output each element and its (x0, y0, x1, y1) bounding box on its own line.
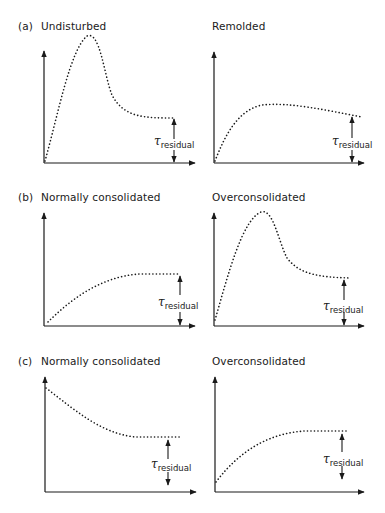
stress-strain-curve (215, 104, 362, 161)
tau-subscript: residual (330, 305, 364, 315)
tau-residual-label: τresidual (323, 452, 363, 466)
tau-symbol: τ (154, 134, 161, 148)
tau-symbol: τ (151, 457, 158, 471)
tau-subscript: residual (330, 458, 364, 468)
tau-residual-label: τresidual (154, 134, 194, 148)
tau-subscript: residual (339, 140, 373, 150)
plot-c-normally-consolidated (45, 377, 196, 492)
tau-residual-label: τresidual (151, 457, 191, 471)
diagram-canvas (0, 0, 385, 513)
tau-residual-label: τresidual (332, 134, 372, 148)
tau-subscript: residual (161, 140, 195, 150)
tau-subscript: residual (165, 301, 199, 311)
tau-residual-label: τresidual (323, 299, 363, 313)
tau-symbol: τ (332, 134, 339, 148)
tau-symbol: τ (323, 452, 330, 466)
tau-symbol: τ (158, 295, 165, 309)
tau-subscript: residual (158, 463, 192, 473)
plot-c-overconsolidated (215, 377, 364, 492)
tau-symbol: τ (323, 299, 330, 313)
tau-residual-label: τresidual (158, 295, 198, 309)
stress-strain-curve (46, 388, 182, 437)
